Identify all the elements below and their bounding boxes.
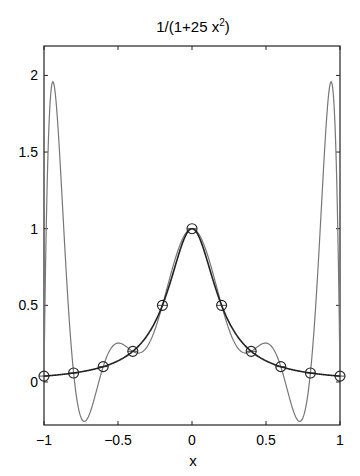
- runge-function-line: [44, 229, 340, 376]
- chart-title: 1/(1+25 x2): [156, 17, 230, 35]
- chart: 1/(1+25 x2) −1−0.500.51 00.511.52 x: [0, 0, 360, 476]
- interpolation-node-markers: [39, 224, 345, 381]
- x-tick-label: 1: [336, 432, 344, 448]
- x-tick-label: 0.5: [256, 432, 276, 448]
- x-tick-label: −0.5: [104, 432, 132, 448]
- y-tick-label: 1.5: [19, 144, 39, 160]
- x-tick-labels: −1−0.500.51: [36, 432, 344, 448]
- plot-area: [44, 46, 340, 425]
- y-tick-label: 0.5: [19, 297, 39, 313]
- x-tick-label: −1: [36, 432, 52, 448]
- x-tick-label: 0: [188, 432, 196, 448]
- y-tick-label: 1: [30, 221, 38, 237]
- x-axis-label: x: [189, 452, 197, 469]
- y-tick-label: 2: [30, 67, 38, 83]
- y-tick-label: 0: [30, 374, 38, 390]
- axis-ticks: [44, 46, 340, 425]
- y-tick-labels: 00.511.52: [19, 67, 39, 390]
